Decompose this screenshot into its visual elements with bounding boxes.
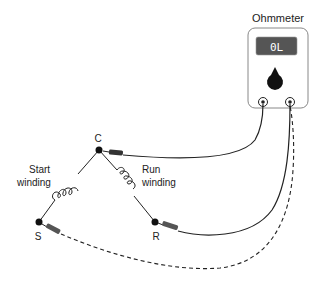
ohmmeter-winding-diagram: 0L: [0, 0, 321, 288]
node-r: [152, 219, 159, 226]
left-terminal-dot: [261, 100, 265, 104]
probe-c: [109, 149, 123, 155]
start-winding-label-line1: Start: [29, 164, 50, 175]
node-s: [36, 219, 43, 226]
lead-r-to-meter: [178, 104, 290, 235]
node-s-label: S: [32, 231, 44, 242]
right-terminal-dot: [288, 100, 292, 104]
probe-r: [162, 221, 179, 231]
node-c: [96, 147, 103, 154]
node-c-label: C: [92, 133, 104, 144]
ohmmeter-label: Ohmmeter: [240, 12, 316, 24]
diagram-canvas: 0L: [0, 0, 321, 288]
probe-s: [45, 223, 61, 234]
display-reading: 0L: [270, 41, 284, 54]
node-r-label: R: [150, 231, 162, 242]
run-winding-label-line1: Run: [142, 164, 160, 175]
run-winding-label-line2: winding: [142, 177, 176, 188]
start-winding-label-line2: winding: [17, 177, 51, 188]
lead-c-to-meter: [123, 104, 263, 158]
